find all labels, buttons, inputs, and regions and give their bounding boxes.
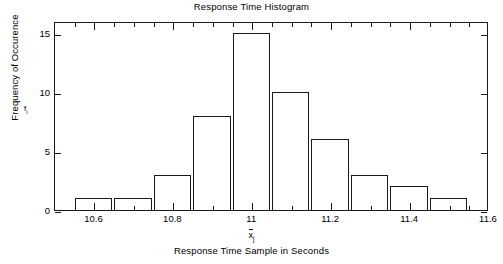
histogram-bar — [193, 116, 230, 211]
y-axis-symbol-subscript: i — [26, 109, 27, 115]
x-axis-minor-tick — [75, 206, 76, 210]
y-axis-tick — [55, 153, 61, 154]
x-axis-minor-tick — [114, 206, 115, 210]
x-axis-tick-label: 10.6 — [84, 213, 103, 225]
x-axis-minor-tick-top — [450, 23, 451, 27]
histogram-bar — [430, 198, 467, 210]
x-axis-minor-tick — [390, 206, 391, 210]
x-axis-minor-tick-top — [311, 23, 312, 27]
x-axis-minor-tick-top — [134, 23, 135, 27]
x-axis-tick-label: 11.4 — [400, 213, 418, 225]
histogram-bar — [154, 175, 191, 210]
x-axis-minor-tick — [213, 206, 214, 210]
y-axis-tick-right — [481, 94, 487, 95]
x-axis-tick — [331, 203, 332, 210]
x-axis-minor-tick — [154, 206, 155, 210]
x-axis-minor-tick — [469, 206, 470, 210]
x-axis-tick-top — [94, 23, 95, 30]
x-axis-tick-top — [173, 23, 174, 30]
x-axis-minor-tick — [430, 206, 431, 210]
histogram-bar — [114, 198, 151, 210]
x-axis-minor-tick — [272, 206, 273, 210]
x-axis-symbol: xj — [0, 229, 503, 244]
x-axis-tick-top — [487, 23, 488, 30]
histogram-bar — [311, 139, 348, 210]
x-axis-minor-tick-top — [213, 23, 214, 27]
x-axis-tick-label: 11.2 — [321, 213, 339, 225]
plot-area — [54, 22, 488, 211]
x-axis-minor-tick-top — [233, 23, 234, 27]
x-axis-tick-labels: 10.610.81111.211.411.6 — [54, 213, 488, 227]
x-axis-minor-tick-top — [272, 23, 273, 27]
x-axis-minor-tick — [134, 206, 135, 210]
x-axis-minor-tick-top — [390, 23, 391, 27]
x-axis-minor-tick-top — [154, 23, 155, 27]
x-axis-minor-tick-top — [193, 23, 194, 27]
x-axis-tick-label: 10.8 — [163, 213, 182, 225]
histogram-figure: Response Time Histogram 051015 Frequency… — [0, 0, 503, 264]
x-axis-tick — [487, 203, 488, 210]
x-axis-minor-tick — [193, 206, 194, 210]
x-axis-minor-tick-top — [75, 23, 76, 27]
x-axis-title: Response Time Sample in Seconds — [0, 245, 503, 257]
x-axis-minor-tick — [233, 206, 234, 210]
y-axis-tick-right — [481, 35, 487, 36]
x-axis-tick — [410, 203, 411, 210]
y-axis-tick — [55, 94, 61, 95]
x-axis-minor-tick — [311, 206, 312, 210]
x-axis-minor-tick-top — [371, 23, 372, 27]
x-axis-tick-top — [252, 23, 253, 30]
y-axis-title: Frequency of Occurence — [9, 0, 20, 158]
histogram-bar — [390, 186, 427, 210]
y-axis-tick-right — [481, 153, 487, 154]
x-axis-minor-tick — [371, 206, 372, 210]
histogram-bar — [272, 92, 309, 210]
chart-title: Response Time Histogram — [0, 1, 503, 13]
x-axis-tick — [252, 203, 253, 210]
x-axis-tick — [173, 203, 174, 210]
x-axis-minor-tick-top — [430, 23, 431, 27]
histogram-bars — [55, 23, 487, 210]
x-axis-symbol-subscript: j — [253, 235, 254, 242]
x-axis-tick-top — [410, 23, 411, 30]
x-axis-tick-label: 11.6 — [479, 213, 497, 225]
histogram-bar — [233, 33, 270, 210]
histogram-bar — [351, 175, 388, 210]
x-axis-minor-tick — [292, 206, 293, 210]
x-axis-tick — [94, 203, 95, 210]
x-axis-tick-top — [331, 23, 332, 30]
y-axis-symbol: fi — [24, 104, 28, 115]
x-axis-minor-tick-top — [114, 23, 115, 27]
x-axis-minor-tick — [351, 206, 352, 210]
histogram-bar — [75, 198, 112, 210]
y-axis-tick — [55, 35, 61, 36]
x-axis-minor-tick-top — [469, 23, 470, 27]
x-axis-tick-label: 11 — [246, 213, 256, 225]
y-axis-tick-label: 0 — [4, 206, 50, 216]
y-axis-tick-labels: 051015 — [0, 22, 50, 211]
x-axis-minor-tick-top — [351, 23, 352, 27]
x-axis-minor-tick — [450, 206, 451, 210]
x-axis-minor-tick-top — [292, 23, 293, 27]
